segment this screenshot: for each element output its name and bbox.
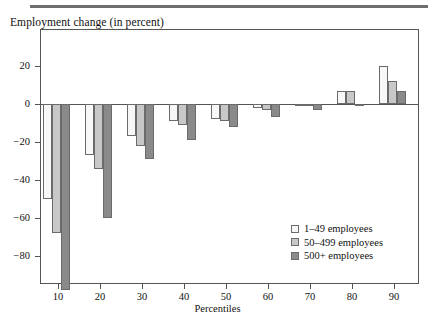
y-axis-label: −40 <box>2 175 30 186</box>
bar <box>187 104 196 140</box>
y-axis-tick <box>35 104 41 105</box>
bar <box>136 104 145 146</box>
bar <box>127 104 136 136</box>
x-axis-label: 20 <box>85 291 115 302</box>
legend-item[interactable]: 500+ employees <box>291 249 383 263</box>
bar <box>61 104 70 290</box>
y-axis-label: −20 <box>2 137 30 148</box>
bar <box>85 104 94 155</box>
x-axis-tick <box>352 284 353 289</box>
light-gray-swatch <box>291 238 299 246</box>
dark-gray-swatch <box>291 252 299 260</box>
x-axis-label: 30 <box>127 291 157 302</box>
bar <box>346 91 355 104</box>
white-swatch <box>291 225 299 233</box>
bar <box>169 104 178 121</box>
figure: Employment change (in percent) 200−20−40… <box>0 0 435 313</box>
bar <box>145 104 154 159</box>
bar <box>262 104 271 110</box>
bar <box>337 91 346 104</box>
bar <box>52 104 61 233</box>
legend-label: 50–499 employees <box>304 236 383 250</box>
legend: 1–49 employees50–499 employees500+ emplo… <box>291 222 383 263</box>
y-axis-label: 0 <box>2 99 30 110</box>
bar <box>94 104 103 169</box>
x-axis-tick <box>226 284 227 289</box>
x-axis-title: Percentiles <box>0 303 435 313</box>
y-axis-tick <box>35 142 41 143</box>
bar <box>253 104 262 108</box>
y-axis-tick <box>35 180 41 181</box>
bar <box>355 104 364 106</box>
x-axis-tick <box>184 284 185 289</box>
x-axis-tick <box>268 284 269 289</box>
x-axis-label: 90 <box>379 291 409 302</box>
x-axis-label: 40 <box>169 291 199 302</box>
bar <box>229 104 238 127</box>
bar <box>295 104 304 106</box>
legend-label: 500+ employees <box>304 249 373 263</box>
x-axis-tick <box>142 284 143 289</box>
bar <box>43 104 52 199</box>
bar <box>397 91 406 104</box>
x-axis-label: 60 <box>253 291 283 302</box>
legend-item[interactable]: 50–499 employees <box>291 236 383 250</box>
x-axis-label: 50 <box>211 291 241 302</box>
bar <box>211 104 220 119</box>
y-axis-label: −80 <box>2 251 30 262</box>
bar <box>388 81 397 104</box>
bar <box>103 104 112 218</box>
chart-title: Employment change (in percent) <box>10 16 164 28</box>
bar <box>379 66 388 104</box>
x-axis-tick <box>394 284 395 289</box>
y-axis-label: −60 <box>2 213 30 224</box>
bar <box>178 104 187 125</box>
legend-label: 1–49 employees <box>304 222 373 236</box>
y-axis-tick <box>35 256 41 257</box>
y-axis-tick <box>35 66 41 67</box>
bar <box>304 104 313 106</box>
y-axis-tick <box>35 218 41 219</box>
y-axis-label: 20 <box>2 61 30 72</box>
x-axis-label: 70 <box>295 291 325 302</box>
x-axis-label: 80 <box>337 291 367 302</box>
legend-item[interactable]: 1–49 employees <box>291 222 383 236</box>
top-rule <box>30 5 428 8</box>
bar <box>271 104 280 117</box>
bar <box>313 104 322 110</box>
x-axis-tick <box>58 284 59 289</box>
x-axis-tick <box>310 284 311 289</box>
x-axis-label: 10 <box>43 291 73 302</box>
x-axis-tick <box>100 284 101 289</box>
bar <box>220 104 229 121</box>
